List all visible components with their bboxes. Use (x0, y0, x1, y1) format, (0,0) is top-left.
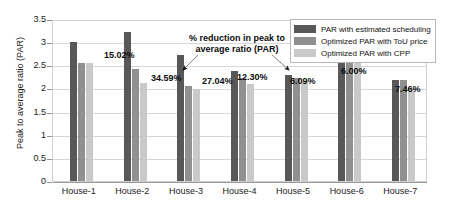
bar-group (70, 20, 93, 181)
y-tick-label: 3.5 (6, 14, 46, 24)
data-label: 27.04% (202, 76, 233, 86)
legend-item-0[interactable]: PAR with estimated scheduling (294, 23, 431, 35)
data-label: 6.09% (290, 76, 316, 86)
bar[interactable] (293, 78, 300, 181)
bar[interactable] (392, 80, 399, 181)
annotation-line-2: average ratio (PAR) (182, 44, 292, 55)
gridline (53, 182, 427, 183)
bar[interactable] (408, 88, 415, 181)
legend-item-2[interactable]: Optimized PAR with CPP (294, 47, 431, 59)
annotation-line-1: % reduction in peak to (182, 33, 292, 44)
bar[interactable] (400, 80, 407, 181)
bar-group (124, 20, 147, 181)
legend-item-1[interactable]: Optimized PAR with ToU price (294, 35, 431, 47)
bar[interactable] (301, 81, 308, 181)
data-label: 15.02% (104, 50, 135, 60)
y-tick-label: 1 (6, 130, 46, 140)
annotation-text: % reduction in peak to average ratio (PA… (182, 33, 292, 55)
legend-label: PAR with estimated scheduling (321, 25, 431, 34)
bar[interactable] (140, 83, 147, 181)
bar[interactable] (239, 78, 246, 181)
bar[interactable] (193, 89, 200, 181)
y-tick-label: 2 (6, 83, 46, 93)
y-tick-label: 2.5 (6, 60, 46, 70)
data-label: 34.59% (151, 73, 182, 83)
y-tick-mark (47, 182, 52, 183)
bar[interactable] (132, 69, 139, 181)
legend-label: Optimized PAR with ToU price (321, 37, 427, 46)
y-tick-label: 0.5 (6, 153, 46, 163)
bar[interactable] (185, 86, 192, 181)
par-bar-chart: Peak to average ratio (PAR) 00.511.522.5… (0, 0, 451, 222)
bar[interactable] (285, 75, 292, 181)
data-label: 6.00% (341, 66, 367, 76)
y-tick-label: 0 (6, 176, 46, 186)
data-label: 12.30% (237, 72, 268, 82)
bar[interactable] (78, 63, 85, 181)
y-tick-label: 3 (6, 37, 46, 47)
bar[interactable] (70, 42, 77, 181)
x-tick-label: House-7 (365, 186, 435, 196)
bar[interactable] (86, 63, 93, 181)
bar[interactable] (231, 71, 238, 181)
data-label: 7.46% (395, 84, 421, 94)
chart-legend: PAR with estimated scheduling Optimized … (290, 19, 436, 63)
legend-swatch-icon (294, 25, 316, 33)
y-tick-label: 1.5 (6, 107, 46, 117)
bar[interactable] (354, 63, 361, 181)
legend-label: Optimized PAR with CPP (321, 49, 410, 58)
legend-swatch-icon (294, 49, 316, 57)
bar[interactable] (247, 84, 254, 181)
legend-swatch-icon (294, 37, 316, 45)
